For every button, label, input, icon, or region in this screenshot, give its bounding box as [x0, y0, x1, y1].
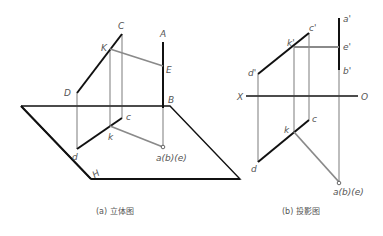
- caption-b: (b) 投影图: [282, 206, 320, 216]
- label-E: E: [166, 65, 172, 75]
- label-K: K: [101, 43, 108, 53]
- line-ke-top: [294, 132, 339, 182]
- label-b-prime: b': [343, 66, 351, 76]
- label-X: X: [236, 92, 244, 102]
- point-abe-top: [337, 181, 341, 185]
- line-c-d-prime: [258, 33, 309, 74]
- label-abe: a(b)(e): [156, 153, 187, 163]
- label-e-prime: e': [343, 42, 351, 52]
- label-k-prime: k': [287, 38, 295, 48]
- label-k: k: [284, 125, 290, 135]
- point-abe: [161, 145, 165, 149]
- label-k: k: [108, 132, 114, 142]
- line-ke-projection: [110, 126, 163, 147]
- label-c: c: [312, 114, 317, 124]
- label-A: A: [159, 29, 166, 39]
- line-ke: [110, 49, 163, 66]
- label-d-prime: d': [248, 68, 256, 78]
- label-B: B: [168, 95, 174, 105]
- label-c-prime: c': [309, 23, 316, 33]
- h-plane-left-edge: [21, 106, 91, 179]
- label-abe: a(b)(e): [333, 187, 364, 197]
- label-D: D: [64, 88, 71, 98]
- label-d: d: [251, 164, 257, 174]
- label-c: c: [126, 112, 131, 122]
- figure-b-projection-view: a' c' k' e' b' d' X O c k d a(b)(e) (b) …: [236, 14, 368, 216]
- label-d: d: [72, 152, 78, 162]
- caption-a: (a) 立体图: [96, 206, 134, 216]
- line-cd: [77, 34, 122, 93]
- label-a-prime: a': [343, 14, 351, 24]
- diagram-canvas: C A K E D B c k d a(b)(e) H (a) 立体图 a' c…: [0, 0, 383, 236]
- label-O: O: [361, 92, 368, 102]
- label-C: C: [118, 21, 125, 31]
- figure-a-3d-view: C A K E D B c k d a(b)(e) H (a) 立体图: [21, 21, 240, 216]
- line-cd-projection: [77, 118, 122, 149]
